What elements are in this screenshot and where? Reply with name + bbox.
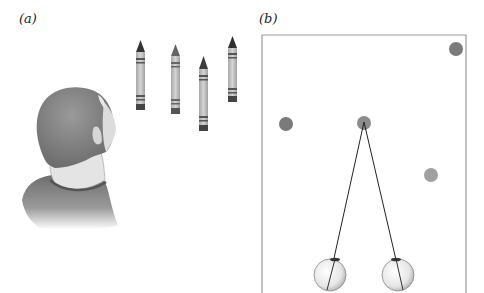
figure-canvas — [0, 0, 484, 293]
crayon-4 — [228, 36, 237, 102]
crayon-3 — [199, 56, 208, 131]
crayons — [136, 36, 237, 131]
crayon-1 — [136, 40, 145, 110]
crayon-2 — [171, 44, 180, 114]
right-eye-icon — [382, 258, 414, 291]
person-back-view — [22, 87, 118, 229]
face-edge — [103, 102, 116, 152]
left-eye-icon — [314, 258, 346, 291]
target-dot-top-right — [449, 42, 463, 56]
view-frame — [262, 35, 466, 293]
target-dot-left — [279, 117, 293, 131]
target-dot-right — [424, 168, 438, 182]
